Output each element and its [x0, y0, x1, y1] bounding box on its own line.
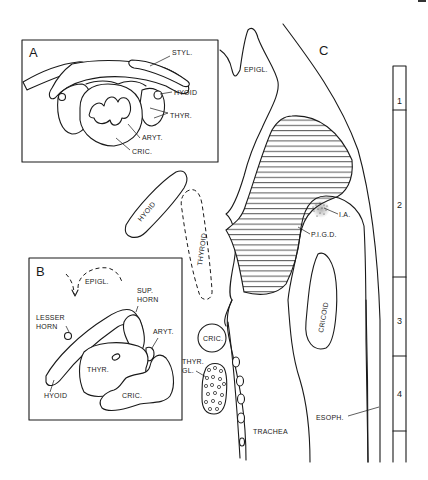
panel-b-label-sup-1: SUP. [137, 287, 153, 294]
panel-a-label-cric: CRIC. [132, 148, 152, 155]
panel-a-left-knob [59, 94, 66, 101]
panel-b-label-hyoid: HYOID [44, 392, 67, 399]
larynx-figure: A STYL. HYOID THYR. ARYT. CRIC. B EPIGL. [0, 0, 428, 480]
panel-b-label-lesser-1: LESSER [36, 314, 65, 321]
panel-c-label-trachea: TRACHEA [253, 428, 288, 435]
panel-b-label-epigl: EPIGL. [85, 278, 109, 285]
panel-b-label-cric: CRIC. [122, 392, 142, 399]
panel-c-label-cric: CRIC. [203, 335, 223, 342]
panel-a-hyoid-knob [154, 91, 162, 99]
panel-a-label-hyoid: HYOID [174, 89, 197, 96]
panel-c-label-pigd: P.I.G.D. [311, 231, 337, 238]
panel-b-label-thyr: THYR. [87, 366, 109, 373]
panel-c-ia-region [312, 200, 330, 218]
panel-c-label-esoph: ESOPH. [316, 414, 344, 421]
panel-a-label-thyr: THYR. [170, 112, 192, 119]
panel-c-thyroid-gland [202, 364, 227, 415]
scale-bar-outline [393, 66, 406, 462]
panel-c-esoph-leader [348, 407, 379, 416]
panel-c-letter: C [319, 43, 328, 58]
panel-a-label-aryt: ARYT. [142, 134, 163, 141]
panel-b-label-sup-2: HORN [137, 296, 158, 303]
scale-segment-1: 1 [397, 96, 402, 106]
panel-a-label-styl: STYL. [172, 49, 192, 56]
panel-a-letter: A [29, 45, 38, 60]
panel-c-thyroid-dashed [181, 190, 212, 300]
panel-b-label-lesser-2: HORN [36, 323, 57, 330]
scale-segment-3: 3 [397, 316, 402, 326]
panel-b: B EPIGL. SUP. HORN LESSER HORN ARYT. THY… [29, 258, 182, 420]
panel-c-label-epigl: EPIGL. [244, 66, 268, 73]
corner-mark [418, 0, 426, 2]
panel-a: A STYL. HYOID THYR. ARYT. CRIC. [22, 40, 218, 162]
panel-c-label-ia: I.A. [339, 211, 350, 218]
panel-c-label-thyr-gl-1: THYR. [182, 358, 204, 365]
scale-bar: 1 2 3 4 [393, 66, 406, 462]
panel-b-epigl-tip [72, 290, 78, 296]
panel-c-hyoid [125, 171, 186, 237]
panel-c-cricoid [306, 253, 337, 349]
scale-segment-4: 4 [397, 389, 402, 399]
scale-segment-2: 2 [397, 200, 402, 210]
panel-b-lesser-horn [65, 333, 72, 340]
panel-c-label-thyroid: THYROID [196, 233, 208, 267]
panel-b-label-aryt: ARYT. [153, 328, 174, 335]
panel-c-label-thyr-gl-2: GL. [182, 367, 194, 374]
panel-b-letter: B [36, 264, 45, 279]
